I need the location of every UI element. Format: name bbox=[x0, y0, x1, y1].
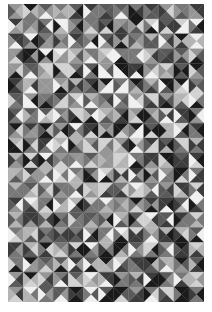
triangle-mosaic bbox=[8, 4, 204, 302]
mosaic-svg bbox=[8, 4, 204, 302]
